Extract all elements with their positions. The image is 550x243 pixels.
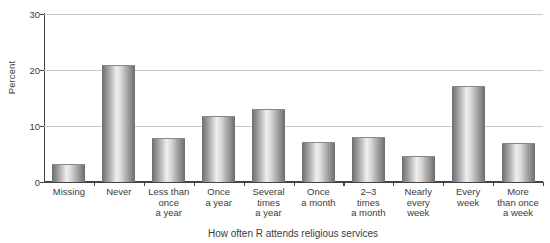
- x-axis-tick-mark: [543, 182, 544, 186]
- x-axis-tick-mark: [194, 182, 195, 186]
- x-axis-category-label: 2–3timesa month: [343, 187, 393, 219]
- x-axis-category-label: Nearlyeveryweek: [393, 187, 443, 219]
- x-axis-tick-mark: [294, 182, 295, 186]
- x-axis-tick-mark: [393, 182, 394, 186]
- x-axis-tick-mark: [343, 182, 344, 186]
- x-axis-category-label: Morethan oncea week: [493, 187, 543, 219]
- x-axis-category-label: Less thanoncea year: [144, 187, 194, 219]
- x-axis-tick-mark: [144, 182, 145, 186]
- gridline: [44, 14, 543, 15]
- bar: [502, 143, 535, 182]
- bar: [152, 138, 185, 182]
- bar: [202, 116, 235, 182]
- x-axis-tick-mark: [94, 182, 95, 186]
- y-axis-tick-label: 30: [29, 9, 40, 20]
- bar: [452, 86, 485, 182]
- x-axis-tick-mark: [493, 182, 494, 186]
- bar: [252, 109, 285, 182]
- x-axis-labels: MissingNeverLess thanoncea yearOncea yea…: [44, 187, 543, 229]
- x-axis-category-label: Oncea month: [294, 187, 344, 208]
- plot-area: 0102030: [44, 14, 543, 182]
- y-axis-tick-mark: [40, 126, 44, 127]
- bar: [302, 142, 335, 182]
- y-axis-tick-mark: [40, 182, 44, 183]
- x-axis-tick-mark: [244, 182, 245, 186]
- y-axis-tick-mark: [40, 70, 44, 71]
- bar: [352, 137, 385, 182]
- x-axis-title: How often R attends religious services: [0, 228, 550, 239]
- y-axis-tick-mark: [40, 14, 44, 15]
- x-axis-tick-mark: [443, 182, 444, 186]
- x-axis-category-label: Missing: [44, 187, 94, 198]
- bar-chart: Percent 0102030 MissingNeverLess thanonc…: [0, 0, 550, 243]
- y-axis-tick-label: 20: [29, 65, 40, 76]
- bar: [402, 156, 435, 182]
- x-axis-category-label: Never: [94, 187, 144, 198]
- y-axis-tick-label: 10: [29, 121, 40, 132]
- y-axis-title: Percent: [6, 43, 17, 113]
- x-axis-category-label: Severaltimesa year: [244, 187, 294, 219]
- bar: [52, 164, 85, 182]
- x-axis-category-label: Oncea year: [194, 187, 244, 208]
- bar: [102, 65, 135, 182]
- x-axis-category-label: Everyweek: [443, 187, 493, 208]
